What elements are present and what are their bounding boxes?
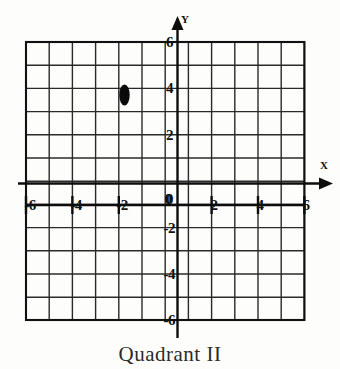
y-axis — [172, 16, 184, 338]
x-tick-label-6: 6 — [303, 198, 310, 213]
figure-caption: Quadrant II — [0, 342, 340, 369]
x-axis-label: X — [320, 160, 328, 171]
plot-area — [0, 0, 340, 340]
x-tick-label-4: 4 — [257, 198, 264, 213]
y-tick-label-2: 2 — [166, 128, 173, 143]
x-axis-arrow-icon — [319, 178, 333, 190]
coordinate-grid-svg — [0, 0, 340, 340]
coordinate-plane-figure: Y X -6 -4 -2 0 2 4 6 6 4 2 0 -2 -4 -6 Qu… — [0, 0, 340, 369]
y-tick-label-0: 0 — [166, 192, 173, 207]
y-tick-label-4: 4 — [166, 81, 173, 96]
x-tick-label--2: -2 — [116, 198, 128, 213]
y-tick-label--6: -6 — [164, 313, 176, 328]
y-tick-label--4: -4 — [164, 267, 176, 282]
x-tick-label--4: -4 — [70, 198, 82, 213]
y-tick-label-6: 6 — [166, 35, 173, 50]
x-tick-label-2: 2 — [211, 198, 218, 213]
x-axis — [18, 178, 333, 190]
y-axis-label: Y — [181, 14, 189, 25]
data-point-marker — [119, 85, 129, 106]
x-tick-label--6: -6 — [24, 198, 36, 213]
y-tick-label--2: -2 — [164, 221, 176, 236]
